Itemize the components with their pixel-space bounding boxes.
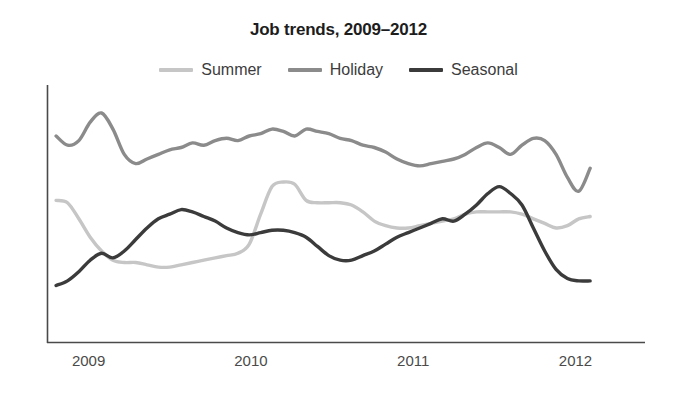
x-tick-label-2011: 2011	[397, 352, 429, 369]
x-tick-label-2010: 2010	[234, 352, 267, 369]
data-series-group	[56, 113, 590, 286]
x-tick-label-2009: 2009	[72, 352, 105, 369]
x-axis-ticks: 2009201020112012	[0, 352, 677, 376]
chart-plot-area	[0, 0, 677, 405]
chart-page: Job trends, 2009–2012 Summer Holiday Sea…	[0, 0, 677, 405]
x-tick-label-2012: 2012	[559, 352, 592, 369]
series-line-holiday	[56, 113, 590, 192]
